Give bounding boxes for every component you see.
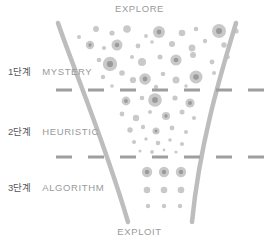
cloud-dot: [174, 150, 177, 153]
cloud-dot-core: [155, 130, 158, 133]
cloud-dot: [150, 150, 154, 154]
cloud-dot-core: [157, 30, 162, 35]
cloud-dot-core: [162, 170, 166, 174]
cloud-dot: [172, 95, 177, 100]
cloud-dot: [163, 149, 166, 152]
cloud-dot-core: [145, 170, 149, 174]
stage-name-label: MYSTERY: [42, 66, 92, 77]
cloud-dot: [97, 58, 102, 63]
stage-name-label: HEURISTIC: [42, 126, 99, 137]
cloud-dot: [203, 39, 207, 43]
cloud-dot-core: [193, 74, 199, 80]
cloud-dot: [136, 44, 141, 49]
cloud-dot: [178, 204, 182, 208]
cloud-dot: [189, 45, 196, 52]
cloud-dot: [161, 187, 168, 194]
cloud-dot: [123, 25, 131, 33]
cloud-dot: [119, 70, 125, 76]
cloud-dot: [146, 204, 150, 208]
stage-row: 1단계 MYSTERY: [8, 64, 92, 78]
cloud-dot: [180, 110, 185, 115]
cloud-dot: [184, 84, 187, 87]
cloud-dot: [221, 42, 226, 47]
diagram-canvas: EXPLORE EXPLOIT 1단계 MYSTERY 2단계 HEURISTI…: [0, 0, 279, 243]
cloud-dot-core: [216, 28, 222, 34]
cloud-dot: [144, 34, 148, 38]
cloud-dot: [150, 40, 154, 44]
stage-row: 2단계 HEURISTIC: [8, 124, 99, 138]
cloud-dot: [212, 71, 216, 75]
cloud-dot: [156, 141, 161, 146]
cloud-dot: [130, 77, 136, 83]
cloud-dot: [110, 84, 114, 88]
cloud-dot: [180, 142, 184, 146]
cloud-dot: [169, 41, 175, 47]
cloud-dot-core: [115, 43, 119, 47]
cloud-dot: [170, 126, 175, 131]
cloud-dot: [138, 58, 146, 66]
exploit-label: EXPLOIT: [0, 226, 279, 237]
cloud-dot: [140, 96, 145, 101]
cloud-dot: [168, 138, 172, 142]
cloud-dot: [173, 77, 180, 84]
stage-name-label: ALGORITHM: [42, 182, 104, 193]
cloud-dot-core: [164, 114, 167, 117]
cloud-dot-core: [88, 43, 91, 46]
cloud-dot: [178, 187, 185, 194]
cloud-dot: [101, 75, 105, 79]
cloud-dot: [144, 187, 151, 194]
funnel-diagram: [0, 0, 279, 243]
cloud-dot-core: [174, 58, 179, 63]
cloud-dot: [194, 27, 199, 32]
cloud-dot: [161, 72, 166, 77]
cloud-dot: [190, 52, 196, 58]
stage-step-label: 3단계: [8, 180, 31, 194]
cloud-dot: [120, 112, 125, 117]
cloud-dot: [133, 115, 139, 121]
cloud-dot: [184, 130, 188, 134]
cloud-dot: [158, 55, 163, 60]
cloud-dot: [179, 30, 186, 37]
cloud-dot-core: [143, 77, 148, 82]
cloud-dot: [162, 204, 166, 208]
cloud-dot: [132, 140, 136, 144]
cloud-dot: [192, 116, 196, 120]
stage-row: 3단계 ALGORITHM: [8, 180, 104, 194]
cloud-dot: [93, 26, 99, 32]
cloud-dot: [148, 110, 152, 114]
cloud-dot: [77, 35, 81, 39]
cloud-dot: [139, 150, 142, 153]
funnel-right-curve: [192, 23, 236, 222]
cloud-dot: [102, 46, 106, 50]
cloud-dot-core: [152, 97, 158, 103]
cloud-dot-core: [179, 170, 183, 174]
cloud-dot-core: [188, 101, 192, 105]
cloud-dot: [210, 60, 215, 65]
stage-step-label: 1단계: [8, 64, 31, 78]
cloud-dot-core: [107, 61, 113, 67]
explore-label: EXPLORE: [0, 3, 279, 14]
cloud-dot: [144, 137, 147, 140]
cloud-dot: [127, 127, 132, 132]
stage-step-label: 2단계: [8, 124, 31, 138]
cloud-dot: [130, 55, 134, 59]
cloud-dot: [141, 125, 145, 129]
cloud-dot: [109, 30, 114, 35]
cloud-dot-core: [124, 99, 128, 103]
